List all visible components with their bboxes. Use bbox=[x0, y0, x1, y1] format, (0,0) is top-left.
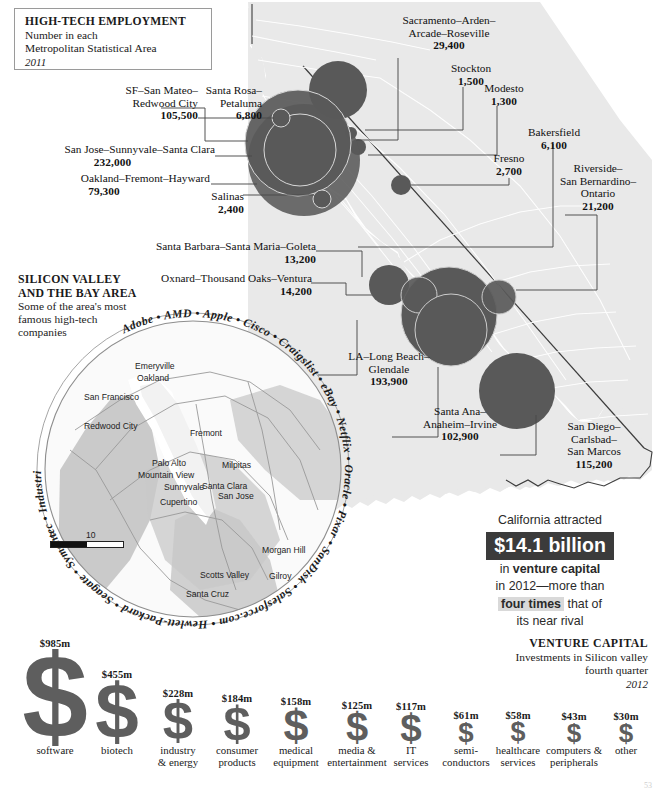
bubble-bakersfield-fresno bbox=[391, 175, 411, 195]
caption-line-2: entertainment bbox=[327, 756, 387, 768]
label-santa-barbara-santa-maria-goleta: Santa Barbara–Santa Maria–Goleta 13,200 bbox=[120, 240, 316, 265]
dollar-bar-other: $30m$other bbox=[604, 711, 648, 756]
inset-city-mountain-view: Mountain View bbox=[138, 470, 195, 480]
dollar-bar-software: $985m$software bbox=[18, 638, 92, 757]
caption-line-2: conductors bbox=[440, 756, 492, 768]
dollar-sign-icon: $ bbox=[604, 723, 648, 744]
bubble-salinas bbox=[313, 190, 331, 208]
dollar-sign-icon: $ bbox=[208, 705, 266, 744]
caption-line-2: peripherals bbox=[543, 756, 605, 768]
label-bakersfield: Bakersfield 6,100 bbox=[520, 126, 588, 151]
dollar-sign-icon: $ bbox=[327, 712, 387, 744]
label-sacramento-arden-arcade-roseville: Sacramento–Arden– Arcade–Roseville 29,40… bbox=[388, 14, 510, 52]
caption-line-1: industry bbox=[148, 744, 208, 756]
dollar-bar-caption: semi-conductors bbox=[440, 744, 492, 769]
dollar-bar-caption: consumerproducts bbox=[208, 744, 266, 769]
label-santa-rosa-petaluma: Santa Rosa– Petaluma 6,800 bbox=[178, 84, 262, 122]
caption-line-1: consumer bbox=[208, 744, 266, 756]
title-line2: Number in each bbox=[25, 29, 203, 42]
title-box: HIGH-TECH EMPLOYMENT Number in each Metr… bbox=[14, 8, 212, 70]
label-san-diego-carlsbad-san-marcos: San Diego– Carlsbad– San Marcos 115,200 bbox=[548, 420, 640, 470]
sv-sub-line2: famous high-tech bbox=[18, 313, 178, 326]
dollar-sign-icon: $ bbox=[386, 713, 436, 744]
scale-zero: 0 bbox=[50, 530, 55, 540]
dollar-bar-caption: other bbox=[604, 744, 648, 756]
caption-line-1: healthcare bbox=[490, 744, 546, 756]
inset-city-milpitas: Milpitas bbox=[222, 460, 251, 470]
inset-city-san-francisco: San Francisco bbox=[84, 392, 139, 402]
sv-heading-line1: SILICON VALLEY bbox=[18, 272, 178, 286]
caption-line-2: services bbox=[490, 756, 546, 768]
dollar-bar-consumer: $184m$consumerproducts bbox=[208, 693, 266, 769]
bubble-santa-rosa bbox=[272, 109, 290, 127]
sv-heading-line2: AND THE BAY AREA bbox=[18, 286, 178, 300]
inset-city-palo-alto: Palo Alto bbox=[152, 458, 186, 468]
dollar-sign-icon: $ bbox=[490, 722, 546, 744]
label-santa-ana-anaheim-irvine: Santa Ana– Anaheim–Irvine 102,900 bbox=[402, 405, 518, 443]
label-fresno: Fresno 2,700 bbox=[481, 152, 537, 177]
vc-line2: in venture capital bbox=[452, 561, 648, 579]
dollar-bar-caption: ITservices bbox=[386, 744, 436, 769]
caption-line-2: products bbox=[208, 756, 266, 768]
dollar-sign-icon: $ bbox=[440, 722, 492, 744]
page-number: 53 bbox=[644, 781, 652, 790]
dollar-bar-caption: industry& energy bbox=[148, 744, 208, 769]
title-heading: HIGH-TECH EMPLOYMENT bbox=[25, 15, 203, 29]
inset-city-fremont: Fremont bbox=[190, 428, 223, 438]
dollar-sign-icon: $ bbox=[18, 650, 92, 744]
title-year: 2011 bbox=[25, 56, 203, 69]
inset-city-san-jose: San Jose bbox=[218, 491, 254, 501]
inset-city-santa-clara: Santa Clara bbox=[202, 481, 248, 491]
caption-line-1: computers & bbox=[543, 744, 605, 756]
dollar-bar-industry: $228m$industry& energy bbox=[148, 688, 208, 768]
label-salinas: Salinas 2,400 bbox=[160, 190, 244, 215]
label-riverside-san-bernardino-ontario: Riverside– San Bernardino– Ontario 21,20… bbox=[544, 162, 652, 212]
inset-city-sunnyvale: Sunnyvale bbox=[164, 482, 204, 492]
inset-city-cupertino: Cupertino bbox=[160, 497, 197, 507]
caption-line-2: equipment bbox=[267, 756, 325, 768]
bubble-riverside bbox=[482, 280, 516, 314]
vc-big-number: $14.1 billion bbox=[486, 532, 614, 560]
dollar-bar-semi-: $61m$semi-conductors bbox=[440, 710, 492, 769]
caption-line-1: medical bbox=[267, 744, 325, 756]
silicon-valley-heading: SILICON VALLEY AND THE BAY AREA Some of … bbox=[18, 272, 178, 340]
dollar-bar-medical: $158m$medicalequipment bbox=[267, 696, 325, 769]
inset-city-redwood-city: Redwood City bbox=[84, 421, 138, 431]
caption-line-1: semi- bbox=[440, 744, 492, 756]
caption-line-1: other bbox=[604, 744, 648, 756]
sv-sub-line1: Some of the area's most bbox=[18, 300, 178, 313]
caption-line-1: media & bbox=[327, 744, 387, 756]
dollar-bar-caption: medicalequipment bbox=[267, 744, 325, 769]
dollar-bar-media--: $125m$media &entertainment bbox=[327, 700, 387, 769]
dollar-bar-computers--: $43m$computers &peripherals bbox=[543, 711, 605, 769]
dollar-bar-caption: media &entertainment bbox=[327, 744, 387, 769]
dollar-sign-icon: $ bbox=[86, 681, 148, 744]
caption-line-2: services bbox=[386, 756, 436, 768]
dollar-bar-it: $117m$ITservices bbox=[386, 701, 436, 769]
caption-line-1: IT bbox=[386, 744, 436, 756]
vc-line3: in 2012—more than bbox=[452, 578, 648, 596]
inset-city-oakland: Oakland bbox=[137, 373, 169, 383]
label-la-long-beach-glendale: LA–Long Beach– Glendale 193,900 bbox=[334, 350, 444, 388]
dollar-sign-icon: $ bbox=[148, 700, 208, 744]
dollar-bar-caption: computers &peripherals bbox=[543, 744, 605, 769]
inset-city-emeryville: Emeryville bbox=[135, 361, 175, 371]
inset-city-gilroy: Gilroy bbox=[269, 571, 292, 581]
sv-sub-line3: companies bbox=[18, 326, 178, 339]
infographic-page: San Francisco Emeryville Oakland Redwood… bbox=[0, 0, 658, 792]
dollar-bar-caption: healthcareservices bbox=[490, 744, 546, 769]
label-modesto: Modesto 1,300 bbox=[474, 82, 534, 107]
inset-city-scotts-valley: Scotts Valley bbox=[200, 570, 250, 580]
caption-line-2: & energy bbox=[148, 756, 208, 768]
vc-line1: California attracted bbox=[452, 512, 648, 530]
dollar-sign-icon: $ bbox=[267, 708, 325, 744]
venture-capital-dollar-chart: $985m$software$455m$biotech$228m$industr… bbox=[0, 596, 658, 792]
dollar-bar-biotech: $455m$biotech bbox=[86, 669, 148, 756]
dollar-sign-icon: $ bbox=[543, 723, 605, 744]
scale-bar-graphic bbox=[50, 541, 124, 548]
title-line3: Metropolitan Statistical Area bbox=[25, 42, 203, 55]
inset-city-morgan-hill: Morgan Hill bbox=[262, 545, 306, 555]
dollar-bar-healthcare: $58m$healthcareservices bbox=[490, 710, 546, 768]
label-san-jose-sunnyvale-santa-clara: San Jose–Sunnyvale–Santa Clara 232,000 bbox=[30, 143, 215, 168]
